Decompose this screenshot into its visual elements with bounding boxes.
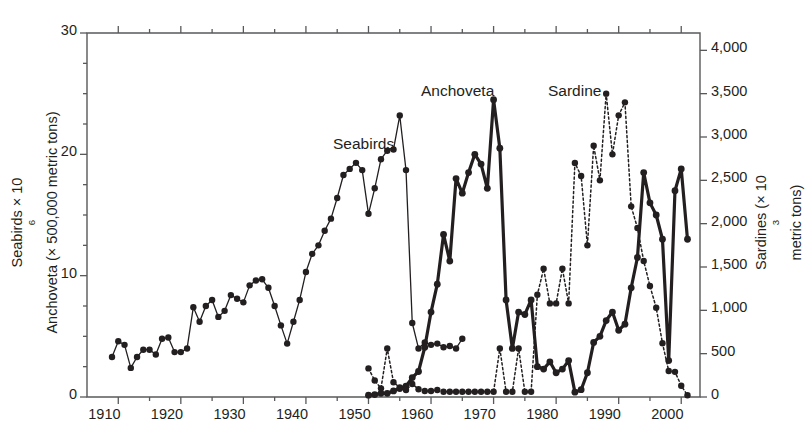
series-marker-sardine-1957 (409, 381, 415, 387)
series-marker-sardine-1954 (390, 379, 396, 385)
series-marker-seabirds-1964 (453, 345, 459, 351)
series-marker-anchoveta-1957 (409, 374, 416, 381)
series-marker-sardine-1967 (472, 389, 478, 395)
series-marker-seabirds-1912 (128, 365, 134, 371)
series-marker-anchoveta-1973 (509, 345, 516, 352)
series-marker-seabirds-1921 (184, 345, 190, 351)
series-marker-seabirds-1928 (228, 292, 234, 298)
ytick-right-label-4000: 4,000 (711, 39, 747, 55)
series-marker-sardine-1984 (578, 173, 584, 179)
series-marker-seabirds-1965 (459, 336, 465, 342)
series-marker-sardine-1965 (459, 389, 465, 395)
series-marker-seabirds-1958 (415, 345, 421, 351)
series-marker-seabirds-1934 (265, 285, 271, 291)
series-marker-anchoveta-1969 (484, 185, 491, 192)
series-marker-seabirds-1909 (109, 354, 115, 360)
series-marker-anchoveta-1992 (628, 284, 635, 291)
series-marker-seabirds-1932 (253, 277, 259, 283)
series-marker-seabirds-1947 (347, 166, 353, 172)
series-marker-sardine-1989 (609, 151, 615, 157)
series-marker-seabirds-1955 (397, 112, 403, 118)
series-marker-seabirds-1933 (259, 276, 265, 282)
series-marker-sardine-1964 (453, 389, 459, 395)
ytick-left-label-30: 30 (19, 22, 77, 38)
series-marker-anchoveta-1993 (634, 254, 641, 261)
ytick-right-label-2000: 2,000 (711, 213, 747, 229)
series-marker-anchoveta-1967 (471, 151, 478, 158)
series-marker-anchoveta-1980 (553, 369, 560, 376)
series-marker-anchoveta-1982 (565, 357, 572, 364)
xtick-label-1920: 1920 (151, 406, 183, 422)
series-marker-seabirds-1957 (409, 320, 415, 326)
series-marker-seabirds-1937 (284, 340, 290, 346)
series-marker-seabirds-1913 (134, 354, 140, 360)
series-marker-anchoveta-1984 (578, 386, 585, 393)
series-marker-seabirds-1940 (303, 269, 309, 275)
series-marker-sardine-1985 (584, 242, 590, 248)
series-marker-sardine-1966 (465, 389, 471, 395)
series-marker-seabirds-1960 (428, 342, 434, 348)
xtick-label-1950: 1950 (338, 406, 370, 422)
xtick-label-1980: 1980 (526, 406, 558, 422)
ytick-right-label-1500: 1,500 (711, 256, 747, 272)
series-marker-sardine-1968 (478, 389, 484, 395)
series-marker-seabirds-1916 (153, 351, 159, 357)
series-marker-seabirds-1963 (447, 343, 453, 349)
series-marker-sardine-1980 (553, 300, 559, 306)
series-marker-sardine-1975 (522, 389, 528, 395)
series-marker-anchoveta-1985 (584, 369, 591, 376)
xtick-label-2000: 2000 (651, 406, 683, 422)
ytick-right-label-1000: 1,000 (711, 299, 747, 315)
series-marker-seabirds-1945 (334, 195, 340, 201)
series-line-anchoveta (368, 100, 687, 395)
series-marker-sardine-1953 (384, 345, 390, 351)
series-marker-seabirds-1935 (271, 303, 277, 309)
series-line-seabirds (112, 116, 462, 368)
plot-frame (87, 33, 700, 397)
series-marker-sardine-1962 (440, 389, 446, 395)
series-marker-sardine-1996 (653, 305, 659, 311)
ytick-right-label-500: 500 (711, 343, 735, 359)
series-marker-sardine-1981 (559, 266, 565, 272)
series-marker-anchoveta-1953 (384, 390, 391, 397)
ytick-left-label-10: 10 (19, 265, 77, 281)
series-marker-seabirds-1943 (321, 228, 327, 234)
series-marker-sardine-1999 (672, 369, 678, 375)
series-marker-anchoveta-1976 (528, 297, 535, 304)
series-marker-sardine-1978 (540, 266, 546, 272)
series-marker-seabirds-1929 (234, 296, 240, 302)
series-marker-seabirds-1931 (246, 282, 252, 288)
series-marker-sardine-1986 (590, 142, 596, 148)
series-marker-seabirds-1918 (165, 334, 171, 340)
series-marker-anchoveta-1996 (653, 212, 660, 219)
series-marker-anchoveta-1975 (521, 311, 528, 318)
ytick-left-label-0: 0 (19, 386, 77, 402)
series-marker-sardine-1960 (428, 388, 434, 394)
series-marker-sardine-1982 (565, 300, 571, 306)
series-marker-anchoveta-2001 (684, 236, 691, 243)
series-marker-sardine-1955 (397, 384, 403, 390)
series-marker-anchoveta-1964 (453, 175, 460, 182)
series-marker-anchoveta-1997 (659, 236, 666, 243)
series-marker-seabirds-1922 (190, 304, 196, 310)
series-marker-sardine-1959 (422, 388, 428, 394)
series-marker-anchoveta-1965 (459, 190, 466, 197)
series-marker-sardine-1961 (434, 387, 440, 393)
series-marker-seabirds-1915 (146, 346, 152, 352)
series-marker-sardine-1987 (597, 177, 603, 183)
ytick-right-label-2500: 2,500 (711, 169, 747, 185)
series-marker-anchoveta-1974 (515, 309, 522, 316)
series-marker-anchoveta-1981 (559, 366, 566, 373)
xtick-label-1990: 1990 (589, 406, 621, 422)
series-marker-seabirds-1962 (440, 344, 446, 350)
series-marker-seabirds-1911 (121, 342, 127, 348)
series-marker-seabirds-1954 (390, 146, 396, 152)
series-marker-seabirds-1942 (315, 242, 321, 248)
xtick-label-1930: 1930 (213, 406, 245, 422)
series-marker-seabirds-1920 (178, 349, 184, 355)
series-marker-seabirds-1910 (115, 338, 121, 344)
series-marker-seabirds-1944 (328, 215, 334, 221)
series-marker-sardine-1994 (641, 258, 647, 264)
